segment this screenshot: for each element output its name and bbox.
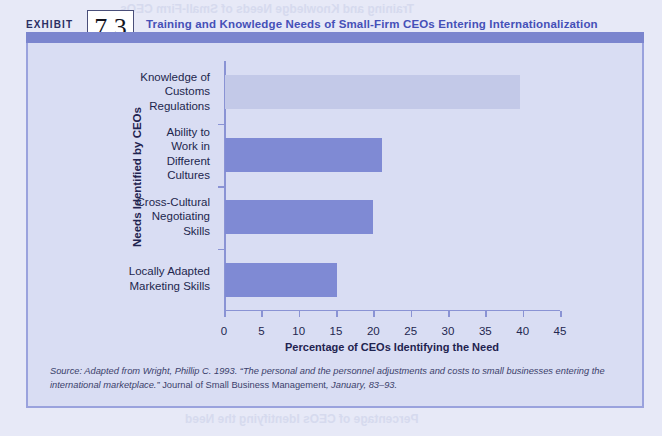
x-axis-tick [523, 311, 525, 317]
bleed-through-artifact: Percentage of CEOs Identifying the Need [185, 412, 418, 426]
x-axis-tick [411, 311, 413, 317]
y-axis-category-label-line: Knowledge of [60, 70, 210, 85]
source-journal-name: Journal of Small Business Management [162, 380, 326, 390]
y-axis-category-label: Ability toWork inDifferentCultures [60, 125, 210, 183]
y-axis-category-label: Locally AdaptedMarketing Skills [60, 264, 210, 293]
x-axis-tick-label: 45 [554, 325, 567, 337]
y-axis-category-label-line: Regulations [60, 99, 210, 114]
bar [225, 138, 382, 172]
x-axis-tick-label: 40 [516, 325, 529, 337]
chart-panel: Needs Identified by CEOs Knowledge ofCus… [26, 43, 644, 408]
exhibit-label: EXHIBIT [26, 19, 73, 30]
x-axis-tick [560, 311, 562, 317]
y-axis-category-label-line: Customs [60, 84, 210, 99]
y-axis-tick [218, 249, 224, 251]
y-axis-category-label: Cross-CulturalNegotiatingSkills [60, 195, 210, 239]
x-axis-tick-label: 0 [221, 325, 227, 337]
x-axis-tick [336, 311, 338, 317]
x-axis-tick-label: 5 [258, 325, 264, 337]
bar [225, 263, 337, 297]
x-axis-tick [485, 311, 487, 317]
plot-area: Knowledge ofCustomsRegulationsAbility to… [224, 61, 560, 311]
x-axis-tick-label: 35 [479, 325, 492, 337]
y-axis-tick [218, 124, 224, 126]
x-axis-tick-label: 30 [442, 325, 455, 337]
y-axis-tick [218, 186, 224, 188]
bar [225, 75, 520, 109]
y-axis-category-label-line: Negotiating [60, 209, 210, 224]
x-axis-tick-label: 20 [367, 325, 380, 337]
y-axis-category-label-line: Cultures [60, 168, 210, 183]
header-rule [26, 32, 644, 43]
x-axis-tick [373, 311, 375, 317]
y-axis-category-label-line: Locally Adapted [60, 264, 210, 279]
source-note: Source: Adapted from Wright, Phillip C. … [50, 365, 620, 392]
x-axis-tick [224, 311, 226, 317]
y-axis-category-label-line: Marketing Skills [60, 279, 210, 294]
x-axis-tick [448, 311, 450, 317]
x-axis-title: Percentage of CEOs Identifying the Need [224, 341, 560, 353]
y-axis-category-label-line: Cross-Cultural [60, 195, 210, 210]
y-axis-category-label: Knowledge ofCustomsRegulations [60, 70, 210, 114]
x-axis-tick [299, 311, 301, 317]
x-axis-tick [261, 311, 263, 317]
y-axis-category-label-line: Skills [60, 224, 210, 239]
x-axis-tick-label: 15 [330, 325, 343, 337]
y-axis-category-label-line: Different [60, 154, 210, 169]
y-axis-category-label-line: Work in [60, 139, 210, 154]
bar [225, 200, 373, 234]
x-axis-tick-label: 25 [404, 325, 417, 337]
source-text-italic-b: , January, 83–93. [326, 380, 397, 390]
page-title: Training and Knowledge Needs of Small-Fi… [146, 18, 598, 30]
x-axis-tick-label: 10 [292, 325, 305, 337]
bleed-through-artifact: Training and Knowledge Needs of Small-Fi… [120, 2, 414, 16]
y-axis-category-label-line: Ability to [60, 125, 210, 140]
x-axis-line [224, 310, 560, 312]
